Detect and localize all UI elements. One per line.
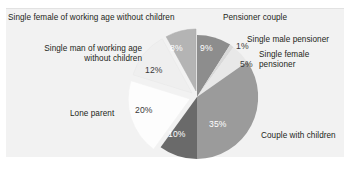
value-single-man-of-working-age: 12%	[145, 66, 163, 75]
label-couple-with-children: Couple with children	[261, 131, 336, 141]
value-couple-without-children: 10%	[168, 130, 186, 139]
label-lone-parent: Lone parent	[70, 109, 114, 119]
pie-chart-figure: Single female of working age without chi…	[0, 0, 350, 183]
label-single-man-of-working-age: Single man of working age without childr…	[22, 44, 142, 65]
label-single-male-pensioner: Single male pensioner	[247, 35, 329, 45]
value-single-male-pensioner: 1%	[236, 42, 249, 51]
label-single-female-of-working-age: Single female of working age without chi…	[8, 13, 175, 23]
label-pensioner-couple: Pensioner couple	[223, 13, 287, 23]
label-single-female-pensioner: Single female pensioner	[259, 50, 309, 71]
value-single-female-of-working-age: 8%	[170, 44, 183, 53]
value-lone-parent: 20%	[135, 106, 153, 115]
value-couple-with-children: 35%	[209, 120, 227, 129]
value-pensioner-couple: 9%	[200, 44, 213, 53]
pie-chart-graphic	[0, 0, 350, 183]
value-single-female-pensioner: 5%	[240, 60, 253, 69]
